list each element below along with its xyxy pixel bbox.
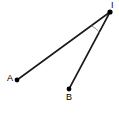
segment-IB — [69, 12, 110, 89]
angle-arc-AIB — [92, 26, 100, 33]
geometry-svg — [0, 0, 119, 137]
point-label-a: A — [7, 74, 13, 83]
geometry-diagram: A B I — [0, 0, 119, 137]
vertex-dot-I — [107, 9, 112, 14]
segment-IA — [17, 12, 110, 80]
point-dot-B — [67, 87, 72, 92]
point-dot-A — [15, 78, 20, 83]
vertex-label-i: I — [111, 1, 114, 10]
point-label-b: B — [66, 93, 72, 102]
